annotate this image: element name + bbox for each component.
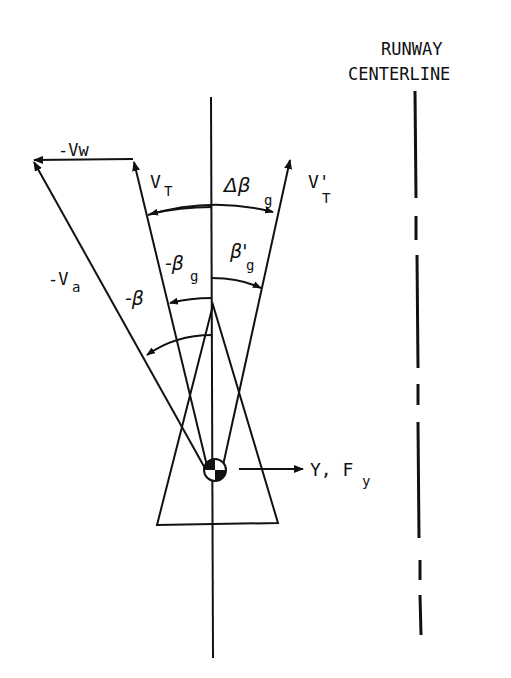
neg-beta-g-arc [170, 298, 212, 303]
beta-g-prime-subscript: g [246, 257, 254, 273]
beta-g-prime-label: β' [229, 240, 247, 262]
runway-centerline [415, 91, 421, 635]
delta-beta-subscript: g [264, 192, 272, 208]
runway-label-line2: CENTERLINE [348, 64, 450, 84]
aircraft-axis [211, 97, 213, 658]
va-label: -V [48, 269, 68, 289]
neg-beta-label: -β [125, 287, 144, 309]
wind-label: -Vw [58, 140, 89, 160]
side-force-subscript: y [362, 473, 370, 489]
side-force-label: Y, F [310, 459, 353, 480]
neg-beta-g-label: -β [165, 252, 184, 274]
delta-beta-label: Δβ [222, 173, 251, 197]
vt-subscript: T [164, 183, 173, 199]
vector-diagram: RUNWAY CENTERLINE -Vw V T V' T Δβ g -V a… [0, 0, 511, 678]
va-subscript: a [72, 279, 80, 295]
vt-prime-subscript: T [322, 190, 331, 206]
delta-beta-arc-left [150, 207, 212, 214]
neg-beta-g-subscript: g [190, 268, 198, 284]
center-of-gravity-icon [204, 459, 226, 481]
vt-prime-label: V' [308, 171, 330, 192]
runway-label-line1: RUNWAY [381, 39, 442, 59]
true-velocity-prime-vector [222, 160, 290, 470]
beta-g-prime-arc [212, 278, 261, 288]
vt-label: V [150, 171, 161, 192]
